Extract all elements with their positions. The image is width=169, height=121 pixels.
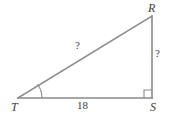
side-label-base: 18 <box>77 100 88 111</box>
side-label-vertical-leg: ? <box>155 48 160 59</box>
vertex-label-T: T <box>11 101 18 113</box>
vertex-label-S: S <box>150 101 156 113</box>
right-angle-square-S <box>144 90 152 98</box>
side-label-hypotenuse: ? <box>75 40 80 51</box>
vertex-label-R: R <box>148 2 155 14</box>
geometry-figure: R S T 18 ? ? <box>0 0 169 121</box>
